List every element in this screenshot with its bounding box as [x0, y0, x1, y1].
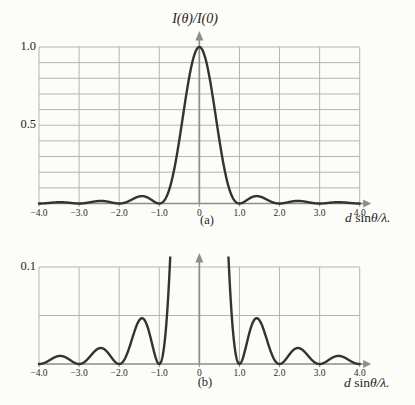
xlabel-d-a: d: [345, 210, 352, 225]
x-tick-label-a: −3.0: [70, 208, 87, 218]
x-axis-arrow-icon: [363, 200, 371, 208]
x-tick-label-a: −2.0: [111, 208, 128, 218]
y-tick-label-b: 0.1: [5, 259, 36, 274]
axes-b: [39, 253, 371, 368]
y-tick-label-a: 1.0: [5, 39, 36, 54]
x-tick-label-a: 1.0: [234, 208, 246, 218]
chart-b-xaxis-label: d sinθ/λ.: [344, 375, 390, 391]
x-tick-label-b: 1.0: [234, 368, 246, 378]
chart-a: [39, 31, 371, 207]
chart-a-title: I(θ)/I(0): [145, 11, 245, 27]
x-tick-label-b: −1.0: [151, 368, 168, 378]
x-tick-label-a: 4.0: [354, 208, 366, 218]
diffraction-intensity-figure: I(θ)/I(0) (a) d sinθ/λ. (b) d sinθ/λ. −4…: [0, 0, 415, 405]
x-tick-label-b: −4.0: [30, 368, 47, 378]
x-tick-label-b: −3.0: [70, 368, 87, 378]
xlabel-theta-lambda-a: θ/λ.: [371, 210, 391, 225]
y-axis-arrow-icon: [195, 31, 203, 41]
y-axis-arrow-icon: [195, 253, 203, 263]
x-tick-label-a: 2.0: [274, 208, 286, 218]
x-tick-label-b: 2.0: [274, 368, 286, 378]
x-tick-label-b: 0: [197, 368, 202, 378]
xlabel-theta-lambda-b: θ/λ.: [370, 375, 390, 390]
x-tick-label-b: 4.0: [354, 368, 366, 378]
x-tick-label-a: −1.0: [151, 208, 168, 218]
chart-a-xaxis-label: d sinθ/λ.: [345, 210, 391, 226]
charts-canvas: [0, 0, 415, 405]
x-tick-label-b: 3.0: [314, 368, 326, 378]
xlabel-d-b: d: [344, 375, 351, 390]
x-tick-label-b: −2.0: [111, 368, 128, 378]
x-tick-label-a: −4.0: [30, 208, 47, 218]
x-tick-label-a: 3.0: [314, 208, 326, 218]
x-tick-label-a: 0: [197, 208, 202, 218]
y-tick-label-a: 0.5: [5, 117, 36, 132]
